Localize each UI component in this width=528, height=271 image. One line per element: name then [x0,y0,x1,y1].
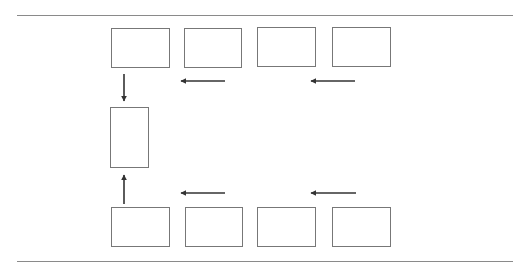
arrows-layer [0,0,528,271]
